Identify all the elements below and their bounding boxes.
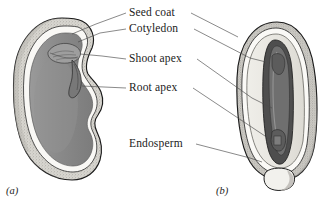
label-root-apex: Root apex — [129, 81, 177, 94]
seed-diagram-dicot — [12, 18, 102, 180]
panel-label-a: (a) — [6, 185, 19, 197]
label-cotyledon: Cotyledon — [129, 22, 178, 35]
panel-letters: (a) (b) — [6, 185, 229, 197]
label-seed-coat: Seed coat — [129, 6, 175, 18]
monocot-root-apex — [271, 130, 286, 152]
dicot-cotyledon-highlight — [34, 57, 78, 153]
leader-seed-coat-right — [191, 13, 238, 37]
seed-anatomy-figure: Seed coat Cotyledon Shoot apex Root apex… — [0, 0, 333, 214]
label-group: Seed coat Cotyledon Shoot apex Root apex… — [129, 6, 183, 150]
label-shoot-apex: Shoot apex — [129, 52, 182, 65]
figure-canvas: Seed coat Cotyledon Shoot apex Root apex… — [0, 0, 333, 214]
seed-diagram-monocot — [237, 20, 320, 191]
monocot-shoot-apex — [272, 54, 285, 75]
label-endosperm: Endosperm — [129, 137, 183, 150]
panel-label-b: (b) — [216, 185, 229, 197]
